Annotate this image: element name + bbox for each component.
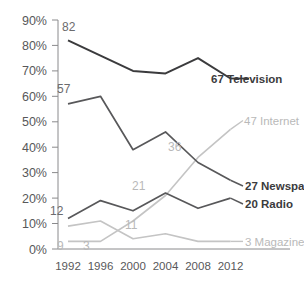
series-end-label-magazines: 3 Magazines [245, 236, 304, 248]
series-line-internet [68, 129, 231, 241]
leader-line-internet [231, 121, 244, 130]
value-label-internet-start: 3 [83, 239, 90, 253]
x-tick-label-2004: 2004 [153, 260, 179, 272]
series-end-label-television: 67 Television [211, 73, 282, 85]
y-tick-label-40: 40% [22, 141, 47, 155]
x-tick-label-2012: 2012 [218, 260, 244, 272]
y-tick-label-20: 20% [22, 192, 47, 206]
series-line-radio [68, 193, 231, 218]
y-tick-label-0: 0% [29, 243, 47, 257]
leader-line-newspapers [231, 180, 244, 186]
value-label-newspapers-start: 57 [57, 82, 71, 96]
y-tick-label-60: 60% [22, 90, 47, 104]
y-tick-label-70: 70% [22, 64, 47, 78]
series-end-label-radio: 20 Radio [245, 198, 293, 210]
series-line-magazines [68, 221, 231, 241]
y-tick-label-10: 10% [22, 217, 47, 231]
leader-line-radio [231, 198, 244, 204]
y-tick-label-80: 80% [22, 39, 47, 53]
x-tick-label-1992: 1992 [55, 260, 81, 272]
value-label-television-start: 82 [62, 20, 76, 34]
value-label-internet-2000: 11 [125, 218, 138, 232]
series-line-television [68, 40, 231, 78]
value-label-internet-2004: 21 [132, 179, 146, 193]
series-end-label-newspapers: 27 Newspapers [245, 180, 304, 192]
x-tick-label-2008: 2008 [185, 260, 211, 272]
chart-canvas: 90% 80% 70% 60% 50% 40% 30% 20% 10% 0% 1… [0, 0, 304, 282]
x-tick-label-1996: 1996 [88, 260, 114, 272]
x-tick-label-2000: 2000 [120, 260, 146, 272]
y-tick-label-90: 90% [22, 14, 47, 28]
y-tick-label-30: 30% [22, 166, 47, 180]
y-tick-label-50: 50% [22, 115, 47, 129]
value-label-internet-2008: 36 [168, 140, 182, 154]
line-chart: 90% 80% 70% 60% 50% 40% 30% 20% 10% 0% 1… [0, 0, 304, 282]
series-line-newspapers [68, 96, 231, 180]
series-end-label-internet: 47 Internet [244, 115, 300, 127]
value-label-magazines-start: 9 [57, 239, 64, 253]
value-label-radio-start: 12 [50, 204, 64, 218]
